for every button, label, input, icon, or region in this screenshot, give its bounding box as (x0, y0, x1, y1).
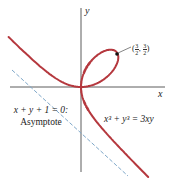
x-axis-label: x (158, 89, 162, 99)
folium-diagram: y x (32, 32) x + y + 1 = 0: Asymptote x³… (0, 0, 170, 183)
paren-close: ) (147, 44, 150, 53)
diagram-canvas (0, 0, 170, 183)
point-leader-line (118, 47, 131, 53)
y-axis-label: y (85, 6, 89, 16)
asymptote-word: Asymptote (10, 116, 72, 128)
asymptote-equation: x + y + 1 = 0: (10, 104, 72, 116)
comma: , (139, 44, 141, 53)
curve-equation-label: x³ + y³ = 3xy (104, 115, 154, 125)
asymptote-label: x + y + 1 = 0: Asymptote (10, 104, 72, 128)
point-label: (32, 32) (132, 43, 149, 56)
